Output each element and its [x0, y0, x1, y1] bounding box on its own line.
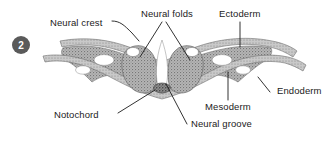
- tissue-group: [43, 38, 306, 99]
- coelom-void-right: [236, 66, 251, 74]
- label-mesoderm: Mesoderm: [205, 102, 251, 112]
- leader-endoderm: [258, 77, 270, 92]
- label-neural-groove: Neural groove: [191, 119, 252, 129]
- leader-notochord: [118, 90, 155, 113]
- leader-neural-crest: [112, 21, 139, 41]
- label-notochord: Notochord: [54, 110, 99, 120]
- label-endoderm: Endoderm: [277, 86, 322, 96]
- somite-void-left: [94, 55, 114, 66]
- neural-crest-left: [127, 47, 140, 56]
- neurulation-figure: 2: [0, 0, 336, 143]
- label-neural-folds: Neural folds: [141, 9, 193, 19]
- somite-void-right: [212, 55, 232, 66]
- neural-groove: [156, 40, 167, 90]
- label-neural-crest: Neural crest: [50, 18, 102, 28]
- label-ectoderm: Ectoderm: [219, 9, 260, 19]
- coelom-void-left: [76, 66, 91, 74]
